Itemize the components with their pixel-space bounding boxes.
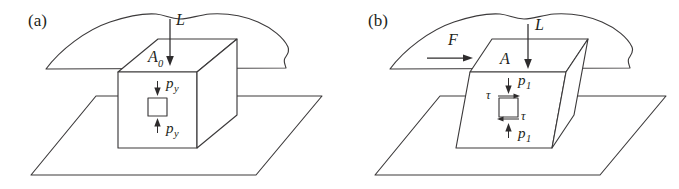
panel-a: L A 0 p y p y (a)	[28, 11, 322, 175]
block-front-face-b	[456, 72, 566, 148]
area-label-b: A	[499, 50, 510, 67]
pressure-top-sub-a: y	[173, 83, 179, 94]
pressure-top-label-b: p	[517, 72, 526, 88]
area-label-a: A	[147, 48, 158, 65]
pressure-top-label-a: p	[165, 75, 174, 91]
pressure-bottom-sub-b: 1	[526, 133, 531, 144]
shear-force-label-b: F	[447, 31, 458, 48]
diagram-svg: L A 0 p y p y (a)	[0, 0, 679, 189]
pressure-bottom-label-b: p	[517, 125, 526, 141]
shear-top-label-b: τ	[486, 88, 491, 102]
pressure-bottom-sub-a: y	[173, 128, 179, 139]
panel-b: F L A p 1 τ τ	[368, 11, 666, 175]
area-sub-a: 0	[158, 58, 164, 69]
shear-bottom-label-b: τ	[521, 109, 526, 123]
pressure-top-sub-b: 1	[526, 80, 531, 91]
figure-container: L A 0 p y p y (a)	[0, 0, 679, 189]
panel-label-b: (b)	[368, 11, 388, 30]
panel-label-a: (a)	[28, 11, 47, 30]
pressure-bottom-label-a: p	[165, 120, 174, 136]
load-label-b: L	[534, 16, 544, 33]
load-label-a: L	[175, 11, 185, 28]
